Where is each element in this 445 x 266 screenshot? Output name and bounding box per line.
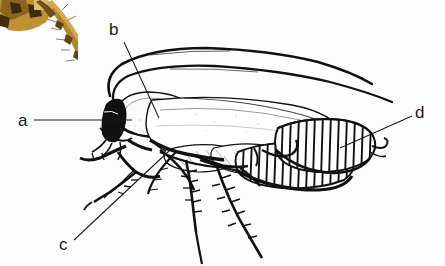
diagram-canvas: a b c d <box>0 0 445 266</box>
cockroach-diagram: a b c d <box>0 0 445 266</box>
label-a: a <box>18 111 28 130</box>
label-d: d <box>415 103 424 122</box>
label-b: b <box>109 20 118 39</box>
label-c: c <box>59 235 68 254</box>
